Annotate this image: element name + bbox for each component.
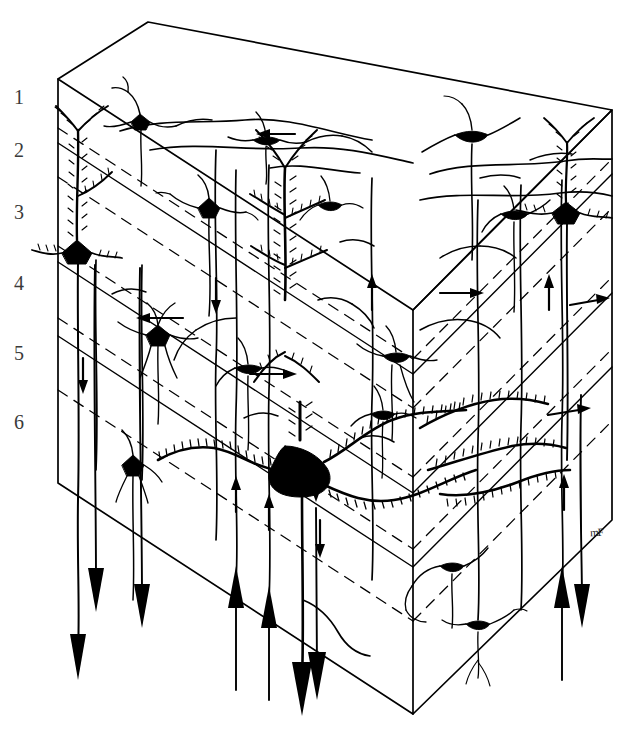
layer-label-2: 2 xyxy=(14,140,24,160)
layer-label-1: 1 xyxy=(14,87,24,107)
spiny-dendrites-right-cluster xyxy=(420,391,570,506)
axon-down-4 xyxy=(574,395,590,628)
layer-label-6: 6 xyxy=(14,412,24,432)
figure-canvas: 1 2 3 4 5 6 mF xyxy=(0,0,626,730)
artist-signature: mF xyxy=(590,526,603,538)
arrow-down-small-2 xyxy=(78,358,88,394)
interneuron-l6-b xyxy=(351,386,416,478)
cortex-block-illustration xyxy=(0,0,626,730)
interneuron-l6-a xyxy=(116,430,162,600)
layer-label-5: 5 xyxy=(14,343,24,363)
afferent-up-1 xyxy=(228,566,244,690)
interneuron-l5-a xyxy=(118,303,198,424)
interneuron-l3-a xyxy=(156,175,258,316)
layer-label-4: 4 xyxy=(14,273,24,293)
interneuron-l3-b xyxy=(482,186,550,312)
layer-label-3: 3 xyxy=(14,202,24,222)
interneuron-l3-c xyxy=(300,176,363,220)
layer1-tangential-fibers xyxy=(120,119,612,200)
arrow-up-small-5 xyxy=(559,474,569,510)
pyramidal-neuron-left xyxy=(32,106,122,680)
interneuron-rface-top xyxy=(422,96,520,260)
afferent-up-2 xyxy=(261,586,277,700)
arrow-up-small-2 xyxy=(544,274,554,310)
interneuron-l5-c xyxy=(357,326,437,440)
pyramidal-neuron-right-face xyxy=(516,118,612,460)
vertical-fibers xyxy=(96,150,563,620)
ascending-afferents xyxy=(228,566,570,700)
misc-processes xyxy=(112,119,572,442)
